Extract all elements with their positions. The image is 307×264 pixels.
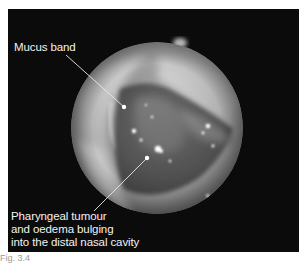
tumour-label-line-2: and oedema bulging — [11, 223, 139, 236]
tumour-label-line-3: into the distal nasal cavity — [11, 236, 139, 249]
endoscopy-figure: Mucus band Pharyngeal tumour and oedema … — [8, 9, 299, 252]
mucus-band-label-line: Mucus band — [14, 41, 76, 54]
mucus-band-label: Mucus band — [14, 41, 76, 54]
mucus-band-pointer-dot — [122, 105, 126, 109]
tumour-label-line-1: Pharyngeal tumour — [11, 210, 139, 223]
pharyngeal-tumour-label: Pharyngeal tumour and oedema bulging int… — [11, 210, 139, 249]
tumour-pointer-dot — [145, 156, 149, 160]
figure-caption: Fig. 3.4 — [0, 253, 30, 264]
